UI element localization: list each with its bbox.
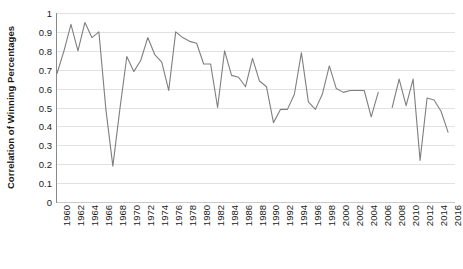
y-axis-tick-label: 0.4 [39,121,52,132]
series-line-correlation [57,22,378,166]
plot-area [57,13,455,202]
y-axis-tick-label: 0.2 [39,159,52,170]
x-axis-tick-label: 1968 [117,205,128,226]
x-axis-tick-label: 1972 [145,205,156,226]
x-axis-tick-label: 2016 [452,205,463,226]
y-axis-tick-label: 0.1 [39,178,52,189]
x-axis-tick-label: 2004 [368,205,379,226]
x-axis-tick-label: 1970 [131,205,142,226]
x-axis-tick-label: 1974 [159,205,170,226]
x-axis-tick-label: 2002 [354,205,365,226]
y-axis-tick-label: 0.8 [39,45,52,56]
y-axis-title-text: Correlation of Winning Percentages [6,26,17,189]
x-axis-tick-label: 1992 [284,205,295,226]
data-series-svg [57,13,455,202]
y-axis-tick-label: 0.7 [39,64,52,75]
x-axis-tick-label: 1996 [312,205,323,226]
x-axis-tick-label: 1990 [270,205,281,226]
x-axis-tick-label: 1980 [201,205,212,226]
x-axis-tick-label: 2014 [438,205,449,226]
y-axis-tick-labels: 00.10.20.30.40.50.60.70.80.91 [22,0,55,215]
x-axis-tick-label: 2008 [396,205,407,226]
y-axis-title: Correlation of Winning Percentages [0,0,22,215]
x-axis-tick-label: 1984 [229,205,240,226]
x-axis-tick-label: 1962 [75,205,86,226]
x-axis-tick-label: 2012 [424,205,435,226]
x-axis-tick-label: 1976 [173,205,184,226]
x-axis-tick-labels: 1960196219641966196819701972197419761978… [57,205,455,267]
x-axis-tick-label: 1982 [215,205,226,226]
series-line-correlation-segment-2 [392,79,448,160]
y-axis-tick-label: 0.9 [39,26,52,37]
y-axis-tick-label: 0.5 [39,102,52,113]
y-axis-tick-label: 0.6 [39,83,52,94]
y-axis-tick-label: 0 [47,197,52,208]
y-axis-tick-label: 1 [47,8,52,19]
x-axis-tick-label: 1960 [61,205,72,226]
x-axis-tick-label: 1964 [89,205,100,226]
x-axis-tick-label: 1978 [187,205,198,226]
y-axis-tick-label: 0.3 [39,140,52,151]
x-axis-tick-label: 2010 [410,205,421,226]
x-axis-tick-label: 1966 [103,205,114,226]
x-axis-tick-label: 2000 [340,205,351,226]
x-axis-tick-label: 1986 [243,205,254,226]
x-axis-tick-label: 1998 [326,205,337,226]
x-axis-tick-label: 2006 [382,205,393,226]
x-axis-tick-label: 1988 [257,205,268,226]
x-axis-tick-label: 1994 [298,205,309,226]
gridline [57,202,455,203]
